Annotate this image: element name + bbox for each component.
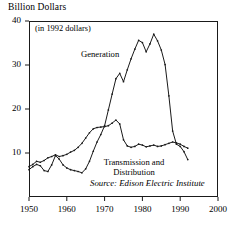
series-label-transmission-line1: Transmission and [104,157,165,167]
data-point [157,40,159,42]
data-point [145,51,147,53]
data-point [119,73,121,75]
data-point [96,127,98,129]
data-point [157,146,159,148]
data-point [100,126,102,128]
data-point [77,146,79,148]
data-point [62,164,64,166]
data-point [39,165,41,167]
data-point [187,159,189,161]
data-point [51,164,53,166]
data-point [77,171,79,173]
data-point [126,69,128,71]
data-point [66,153,68,155]
data-point [160,145,162,147]
data-point [168,142,170,144]
data-point [172,130,174,132]
data-point [123,81,125,83]
data-point [179,143,181,145]
data-point [100,134,102,136]
data-point [74,170,76,172]
data-point [58,156,60,158]
data-point [187,147,189,149]
data-point [183,151,185,153]
data-point [32,164,34,166]
data-point [130,146,132,148]
data-point [85,168,87,170]
data-point [89,161,91,163]
data-point [176,142,178,144]
data-point [92,150,94,152]
data-point [89,132,91,134]
data-point [70,169,72,171]
data-point [96,141,98,143]
data-point [111,93,113,95]
data-point [123,139,125,141]
data-point [28,166,30,168]
data-point [164,144,166,146]
data-point [153,33,155,35]
data-point [62,155,64,157]
data-point [70,151,72,153]
data-point [134,146,136,148]
data-point [126,145,128,147]
data-point [28,169,30,171]
data-point [81,142,83,144]
data-point [172,141,174,143]
data-point [55,154,57,156]
subtitle-annotation: (in 1992 dollars) [35,24,91,33]
data-point [183,146,185,148]
series-label-transmission: Transmission and Distribution [97,157,171,177]
data-point [142,144,144,146]
data-point [115,119,117,121]
data-point [138,40,140,42]
data-point [85,137,87,139]
data-point [153,144,155,146]
data-point [149,145,151,147]
data-point [43,160,45,162]
chart-figure: Billion Dollars 10203040 195019601970198… [0,0,241,226]
data-point [47,157,49,159]
data-point [130,58,132,60]
data-point [43,170,45,172]
data-point [39,161,41,163]
data-point [74,150,76,152]
data-point [115,78,117,80]
data-point [36,164,38,166]
series-label-generation: Generation [81,49,119,59]
data-point [51,156,53,158]
data-point [92,128,94,130]
data-point [108,125,110,127]
data-point [138,143,140,145]
data-point [142,42,144,44]
source-note: Source: Edison Electric Institute [90,178,205,188]
data-point [145,146,147,148]
data-point [32,166,34,168]
data-point [179,146,181,148]
data-point [160,49,162,51]
data-point [104,126,106,128]
data-point [134,48,136,50]
data-point [111,122,113,124]
data-point [47,171,49,173]
data-point [119,123,121,125]
data-point [66,167,68,169]
data-point [149,43,151,45]
data-point [168,95,170,97]
data-point [108,109,110,111]
chart-canvas [0,0,241,226]
data-point [36,161,38,163]
data-point [164,64,166,66]
data-point [58,158,60,160]
series-label-transmission-line2: Distribution [113,167,155,177]
data-point [81,172,83,174]
